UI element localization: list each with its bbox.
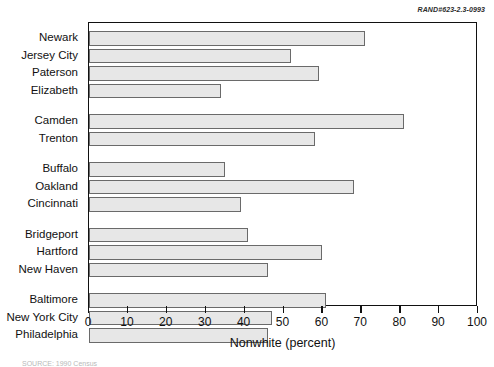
bar [89,66,319,81]
bar [89,263,268,278]
x-tick-label: 40 [237,315,250,329]
category-label: Cincinnati [28,197,79,209]
x-tick [477,306,478,313]
x-tick [283,306,284,313]
category-label: Newark [39,31,78,43]
category-label: Camden [35,114,78,126]
bar [89,228,248,243]
bar [89,84,221,99]
x-axis-tick-labels: 0102030405060708090100 [0,315,494,331]
bar [89,245,322,260]
x-tick-label: 10 [120,315,133,329]
x-tick [127,306,128,313]
report-code: RAND#623-2.3-0993 [418,6,485,13]
category-label: Jersey City [21,49,78,61]
bar [89,31,365,46]
bar [89,197,241,212]
x-tick [166,306,167,313]
category-label: Baltimore [29,293,78,305]
x-tick-label: 30 [198,315,211,329]
category-label: Buffalo [42,162,78,174]
category-label: New Haven [19,263,78,275]
x-tick-label: 60 [315,315,328,329]
x-tick [205,306,206,313]
x-tick-label: 0 [85,315,92,329]
x-tick-label: 100 [467,315,487,329]
x-tick-label: 90 [431,315,444,329]
bar [89,114,404,129]
x-axis-ticks [88,306,477,313]
x-axis-title: Nonwhite (percent) [88,336,477,350]
plot-area [88,22,477,306]
x-tick-label: 70 [354,315,367,329]
category-label: Oakland [35,180,78,192]
x-tick-label: 20 [159,315,172,329]
x-tick [88,306,89,313]
category-label: Elizabeth [31,84,78,96]
bar [89,180,354,195]
x-tick [321,306,322,313]
bar-series [89,23,476,305]
bar [89,132,315,147]
category-label-column: NewarkJersey CityPatersonElizabethCamden… [0,22,84,306]
source-note: SOURCE: 1990 Census [22,360,97,367]
x-tick-label: 80 [393,315,406,329]
category-label: Hartford [36,245,78,257]
x-tick-label: 50 [276,315,289,329]
x-tick [399,306,400,313]
category-label: Bridgeport [25,228,78,240]
category-label: Paterson [32,66,78,78]
bar [89,49,291,64]
category-label: Trenton [39,132,78,144]
x-tick [438,306,439,313]
x-tick [244,306,245,313]
x-tick [360,306,361,313]
bar [89,162,225,177]
